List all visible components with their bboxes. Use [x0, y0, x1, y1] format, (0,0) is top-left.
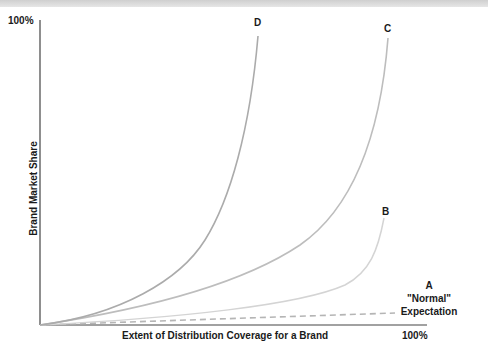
curve-a-label-block: A "Normal" Expectation: [398, 279, 460, 318]
curve-d-label: D: [254, 17, 261, 28]
curve-b: [40, 218, 384, 325]
curve-c-label: C: [384, 23, 391, 34]
x-axis-title: Extent of Distribution Coverage for a Br…: [122, 330, 328, 341]
y-axis-max-label: 100%: [8, 15, 34, 26]
curve-b-label: B: [382, 206, 389, 217]
y-axis-title: Brand Market Share: [28, 134, 39, 244]
curve-c: [40, 38, 388, 325]
curve-a-expectation-label: Expectation: [398, 305, 460, 318]
curve-a-label: A: [398, 279, 460, 292]
x-axis-max-label: 100%: [402, 330, 428, 341]
curve-a-normal-label: "Normal": [398, 292, 460, 305]
